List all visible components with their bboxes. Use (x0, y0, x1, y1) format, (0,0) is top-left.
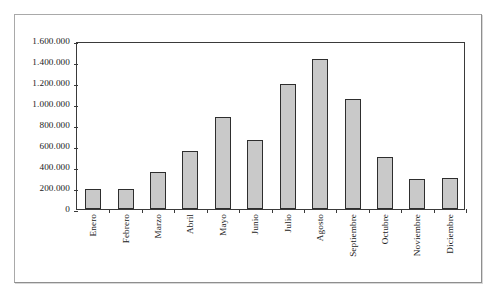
plot-area (76, 42, 465, 210)
bar-chart: 0200.000400.000600.000800.0001.000.0001.… (0, 0, 496, 301)
x-axis-tick-label: Noviembre (412, 214, 422, 256)
bar (409, 179, 425, 209)
y-axis-tick-label: 600.000 (39, 142, 70, 151)
y-axis-tick-label: 400.000 (39, 163, 70, 172)
bar (312, 59, 328, 209)
x-axis-tick-label: Marzo (153, 214, 163, 238)
x-axis-tick-label: Julio (283, 214, 293, 232)
y-axis-tick-label: 200.000 (39, 184, 70, 193)
bar-series (77, 43, 464, 209)
x-axis-tick-label-group: EneroFebreroMarzoAbrilMayoJunioJulioAgos… (76, 212, 465, 284)
y-axis-tick-label: 1.000.000 (32, 100, 70, 109)
bar (247, 140, 263, 209)
y-axis-tick-label: 1.600.000 (32, 37, 70, 46)
y-axis-tick-label: 0 (65, 205, 70, 214)
bar (182, 151, 198, 209)
x-axis-tick-label: Junio (250, 214, 260, 234)
x-axis-tick-label: Abril (185, 214, 195, 234)
bar (442, 178, 458, 210)
bar (85, 189, 101, 209)
x-axis-tick-label: Septiembre (348, 214, 358, 257)
bar (345, 99, 361, 209)
bar (215, 117, 231, 209)
x-axis-tick-label: Febrero (121, 214, 131, 243)
x-axis-tick-label: Agosto (315, 214, 325, 241)
bar (150, 172, 166, 209)
x-axis-tick-label: Diciembre (445, 214, 455, 254)
x-axis-tick-label: Mayo (218, 214, 228, 236)
bar (118, 189, 134, 209)
bar (280, 84, 296, 209)
y-axis-tick-label: 800.000 (39, 121, 70, 130)
x-axis-tick-label: Octubre (380, 214, 390, 244)
y-axis-tick-label: 1.200.000 (32, 79, 70, 88)
y-axis-tick-label: 1.400.000 (32, 58, 70, 67)
x-axis-tick-mark (466, 209, 467, 213)
x-axis-tick-label: Enero (88, 214, 98, 236)
y-axis-tick-label-group: 0200.000400.000600.000800.0001.000.0001.… (18, 0, 70, 301)
bar (377, 157, 393, 210)
